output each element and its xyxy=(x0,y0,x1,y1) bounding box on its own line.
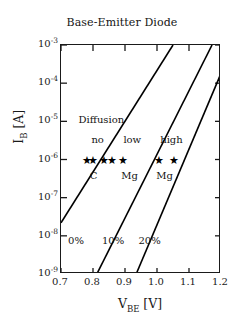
dopant-label-mg-1: Mg xyxy=(121,171,138,181)
data-marker-star: ★ xyxy=(169,154,179,165)
curve-label-0pct: 0% xyxy=(68,236,84,246)
x-tick-label: 1.2 xyxy=(212,276,228,287)
y-tick-label: 10-7 xyxy=(38,190,58,202)
y-tick-label: 10-5 xyxy=(38,113,58,125)
diffusion-label: Diffusion xyxy=(79,115,125,125)
curve-label-10pct: 10% xyxy=(102,236,124,246)
x-axis-tick-labels: 0.70.80.91.01.11.2 xyxy=(60,276,220,292)
region-label-high: high xyxy=(160,135,182,145)
y-tick-label: 10-3 xyxy=(38,37,58,49)
data-marker-star: ★ xyxy=(88,154,98,165)
x-tick-label: 1.0 xyxy=(148,276,164,287)
y-tick-label: 10-8 xyxy=(38,228,58,240)
chart-figure: Base-Emitter Diode DiffusionnolowhighCMg… xyxy=(0,0,244,333)
chart-title: Base-Emitter Diode xyxy=(0,16,244,29)
curve-label-20pct: 20% xyxy=(138,236,160,246)
x-axis-label: VBE [V] xyxy=(60,296,220,314)
x-tick-label: 0.9 xyxy=(116,276,132,287)
data-marker-star: ★ xyxy=(118,154,128,165)
y-tick-label: 10-4 xyxy=(38,75,58,87)
x-tick-label: 0.7 xyxy=(52,276,68,287)
dopant-label-mg-2: Mg xyxy=(156,171,173,181)
data-marker-star: ★ xyxy=(154,154,164,165)
x-tick-label: 0.8 xyxy=(84,276,100,287)
data-marker-star: ★ xyxy=(107,154,117,165)
region-label-no: no xyxy=(91,135,103,145)
y-axis-label: IB [A] xyxy=(11,87,29,167)
x-tick-label: 1.1 xyxy=(180,276,196,287)
region-label-low: low xyxy=(123,135,141,145)
plot-area: DiffusionnolowhighCMgMg0%10%20% ★★★★★★★ xyxy=(60,44,220,273)
curve-0pct xyxy=(61,45,173,223)
y-tick-label: 10-6 xyxy=(38,152,58,164)
dopant-label-c: C xyxy=(90,171,98,181)
